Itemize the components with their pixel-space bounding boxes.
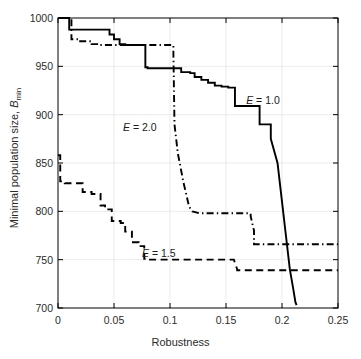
x-tick-label: 0.1 xyxy=(163,314,178,326)
chart-plot-area xyxy=(0,0,361,359)
series-line-e-1-0 xyxy=(58,18,297,305)
x-tick-label: 0.15 xyxy=(216,314,236,326)
x-tick-label: 0.05 xyxy=(104,314,124,326)
figure-container: 00.050.10.150.20.25 70075080085090095010… xyxy=(0,0,361,359)
x-tick-label: 0.25 xyxy=(328,314,348,326)
annotation-value: = 1.5 xyxy=(149,247,176,259)
x-tick-label: 0.2 xyxy=(275,314,290,326)
y-tick-label: 700 xyxy=(0,302,53,314)
annotation-value: = 2.0 xyxy=(130,121,157,133)
annotation-value: = 1.0 xyxy=(253,94,280,106)
x-axis-title: Robustness xyxy=(0,336,361,348)
y-axis-title-subscript: min xyxy=(14,88,23,101)
y-axis-title-text: Minimal population size, xyxy=(8,108,20,228)
series-annotation-e-1-5: E = 1.5 xyxy=(142,247,176,259)
data-series-group xyxy=(58,18,338,305)
y-axis-title-symbol: B xyxy=(8,100,20,107)
annotation-symbol: E xyxy=(123,121,130,133)
x-tick-label: 0 xyxy=(55,314,61,326)
y-tick-label: 1000 xyxy=(0,12,53,24)
series-line-e-2-0 xyxy=(58,18,338,244)
annotation-symbol: E xyxy=(142,247,149,259)
series-annotation-e-2-0: E = 2.0 xyxy=(123,121,157,133)
series-annotation-e-1-0: E = 1.0 xyxy=(246,94,280,106)
y-axis-title: Minimal population size, Bmin xyxy=(8,58,20,258)
gridlines xyxy=(58,18,338,308)
